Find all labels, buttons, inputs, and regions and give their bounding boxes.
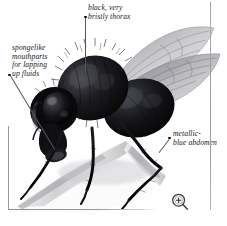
label-bullet-abdomen	[168, 137, 171, 140]
frame-rule-bottom	[8, 209, 158, 210]
frame-rule-left	[8, 126, 9, 210]
label-bullet-mouthparts	[8, 74, 11, 77]
frame-rule-right	[210, 2, 211, 210]
callout-label-thorax: black, very bristly thorax	[88, 4, 131, 21]
magnifier-plus-icon[interactable]	[170, 192, 190, 212]
label-bullet-thorax	[84, 16, 87, 19]
callout-label-mouthparts: spongelike mouthparts for lapping up flu…	[12, 44, 48, 78]
leader-line-thorax	[85, 18, 86, 71]
figure-container: black, very bristly thorax spongelike mo…	[0, 0, 227, 226]
fly-photograph	[0, 0, 227, 226]
